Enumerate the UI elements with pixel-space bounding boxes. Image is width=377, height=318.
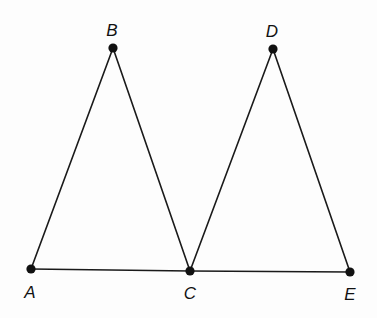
point-c: [185, 266, 194, 275]
label-c: C: [184, 284, 197, 303]
geometry-diagram: ABCDE: [0, 0, 377, 318]
points-layer: [26, 43, 354, 276]
point-d: [268, 44, 277, 53]
segment-ab: [31, 48, 113, 269]
segment-cd: [190, 49, 273, 271]
labels-layer: ABCDE: [23, 21, 356, 304]
segments-layer: [31, 48, 350, 272]
label-e: E: [344, 285, 356, 304]
point-e: [345, 267, 354, 276]
segment-de: [273, 49, 350, 272]
segment-ac: [31, 269, 190, 271]
label-b: B: [106, 21, 117, 40]
label-a: A: [23, 283, 35, 302]
point-b: [108, 43, 117, 52]
triangle-figure: ABCDE: [0, 0, 377, 318]
segment-ce: [190, 271, 350, 272]
segment-bc: [113, 48, 190, 271]
point-a: [26, 264, 35, 273]
label-d: D: [266, 22, 278, 41]
